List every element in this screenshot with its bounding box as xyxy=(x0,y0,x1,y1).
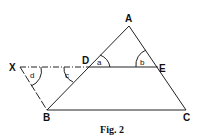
point-label-b: B xyxy=(43,112,50,123)
segment-ab xyxy=(47,26,129,110)
geometry-figure: a b c d A X D E B C Fig. 2 xyxy=(0,0,202,140)
point-label-a: A xyxy=(125,13,132,24)
angle-label-d: d xyxy=(30,71,34,80)
point-label-d: D xyxy=(82,55,89,66)
segment-ac xyxy=(129,26,186,110)
angle-arc-a xyxy=(100,55,110,67)
angle-label-a: a xyxy=(97,58,102,67)
angle-label-b: b xyxy=(140,58,145,67)
angle-label-c: c xyxy=(65,71,69,80)
figure-caption: Fig. 2 xyxy=(100,124,124,135)
point-label-x: X xyxy=(9,62,16,73)
point-label-e: E xyxy=(159,63,166,74)
point-label-c: C xyxy=(183,112,190,123)
